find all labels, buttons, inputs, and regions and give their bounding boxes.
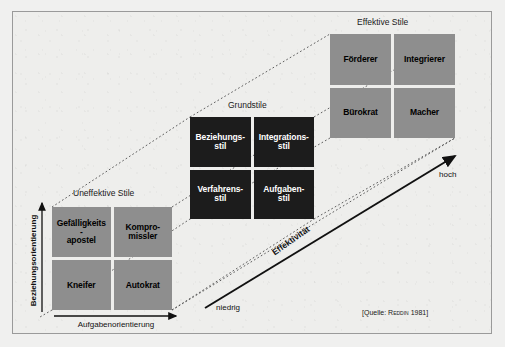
- cell-verfahrensstil: Verfahrens- stil: [190, 170, 251, 220]
- source-prefix: [Quelle:: [362, 309, 388, 316]
- grid-basic-styles: Beziehungs- stil Integrations- stil Verf…: [190, 117, 314, 219]
- effectiveness-low-label: niedrig: [216, 303, 240, 312]
- cell-buerokrat: Bürokrat: [330, 88, 391, 139]
- cell-gefaelligkeitsapostel: Gefälligkeits - apostel: [52, 207, 111, 257]
- effectiveness-high-label: hoch: [439, 170, 456, 179]
- y-axis-label: Beziehungsorientierung: [29, 207, 38, 315]
- cell-beziehungsstil: Beziehungs- stil: [190, 117, 251, 167]
- group-caption-effective: Effektive Stile: [357, 17, 408, 27]
- cell-line-2: stil: [263, 194, 304, 203]
- grid-effective-styles: Förderer Integrierer Bürokrat Macher: [330, 34, 455, 138]
- cell-line-1: Integrierer: [404, 55, 445, 64]
- cell-line-1: Bürokrat: [343, 108, 378, 117]
- grid-ineffective-styles: Gefälligkeits - apostel Kompro- missler …: [52, 207, 172, 310]
- cell-line-2: stil: [196, 142, 245, 151]
- cell-integrierer: Integrierer: [394, 34, 455, 85]
- cell-line-3: apostel: [57, 236, 106, 245]
- x-axis-label: Aufgabenorientierung: [54, 320, 178, 329]
- cell-line-1: Macher: [410, 108, 439, 117]
- cell-line-2: stil: [259, 142, 309, 151]
- group-caption-ineffective: Uneffektive Stile: [73, 188, 134, 198]
- cell-line-2: stil: [197, 194, 243, 203]
- cell-foerderer: Förderer: [330, 34, 391, 85]
- cell-kneifer: Kneifer: [52, 260, 111, 310]
- group-caption-basic: Grundstile: [228, 100, 267, 110]
- cell-autokrat: Autokrat: [114, 260, 173, 310]
- figure-page: Uneffektive Stile Grundstile Effektive S…: [0, 0, 505, 347]
- cell-macher: Macher: [394, 88, 455, 139]
- source-citation: [Quelle: Reddin 1981]: [362, 309, 428, 316]
- cell-line-1: Förderer: [343, 55, 377, 64]
- cell-line-2: missler: [125, 232, 160, 241]
- source-author: Reddin: [388, 309, 409, 316]
- cell-line-1: Kneifer: [67, 281, 96, 290]
- cell-line-1: Autokrat: [126, 281, 160, 290]
- cell-kompromissler: Kompro- missler: [114, 207, 173, 257]
- cell-integrationsstil: Integrations- stil: [254, 117, 315, 167]
- cell-aufgabenstil: Aufgaben- stil: [254, 170, 315, 220]
- source-year: 1981]: [409, 309, 428, 316]
